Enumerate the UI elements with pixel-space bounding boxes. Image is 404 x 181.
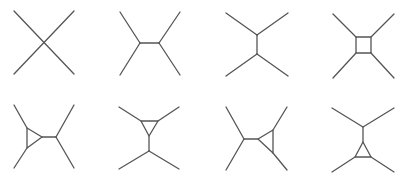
- loop-polygon: [27, 128, 42, 148]
- propagator-line: [363, 108, 394, 127]
- diagram-triangle-left: [14, 105, 74, 168]
- propagator-line: [371, 14, 394, 37]
- propagator-line: [159, 43, 180, 75]
- feynman-diagram-grid: [0, 0, 404, 181]
- propagator-line: [226, 54, 257, 76]
- propagator-line: [14, 105, 27, 128]
- diagram-triangle-top: [119, 107, 179, 169]
- propagator-line: [257, 13, 288, 35]
- diagram-tree-t-channel: [226, 13, 288, 76]
- propagator-line: [226, 107, 244, 139]
- propagator-line: [56, 137, 74, 168]
- propagator-line: [56, 105, 74, 137]
- propagator-line: [158, 107, 179, 121]
- propagator-line: [273, 107, 287, 130]
- propagator-line: [273, 153, 287, 170]
- diagram-triangle-bottom: [332, 108, 394, 172]
- propagator-line: [120, 43, 140, 75]
- propagator-line: [333, 53, 356, 78]
- diagram-tree-s-channel: [120, 12, 180, 75]
- propagator-line: [332, 108, 363, 127]
- propagator-line: [14, 148, 27, 168]
- loop-polygon: [141, 121, 158, 136]
- loop-polygon: [355, 142, 371, 157]
- propagator-line: [371, 157, 394, 172]
- propagator-line: [226, 139, 244, 170]
- propagator-line: [120, 12, 140, 43]
- loop-polygon: [258, 130, 273, 153]
- propagator-line: [159, 12, 180, 43]
- propagator-line: [226, 13, 257, 35]
- propagator-line: [149, 151, 179, 169]
- propagator-line: [333, 14, 356, 37]
- loop-polygon: [356, 37, 371, 53]
- propagator-line: [119, 151, 149, 169]
- propagator-line: [332, 157, 355, 172]
- propagator-line: [257, 54, 288, 76]
- diagram-box-loop: [333, 14, 394, 78]
- diagram-triangle-right: [226, 107, 287, 170]
- propagator-line: [371, 53, 394, 78]
- propagator-line: [119, 107, 141, 121]
- diagram-tree-contact: [14, 11, 74, 74]
